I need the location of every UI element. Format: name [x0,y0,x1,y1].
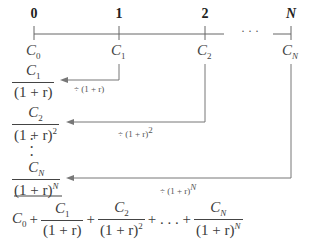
arrow-label-n: ÷ (1 + r)N [160,182,196,196]
arrow-1 [64,64,119,80]
discounted-1: C1 (1 + r) [12,63,54,100]
period-0: 0 [24,6,44,22]
sum-c0: C0 [12,210,27,229]
period-2: 2 [195,6,215,22]
arrow-head-icon [66,175,74,181]
arrow-label-2: ÷ (1 + r)2 [118,125,153,139]
ellipsis-plus: + . . . + [148,211,191,228]
cash-flow-0: C0 [26,42,41,61]
period-1: 1 [109,6,129,22]
cash-flow-n: CN [282,42,298,61]
arrow-head-icon [66,119,74,125]
plus-sign: + [86,211,94,228]
vertical-ellipsis: ··· [29,136,34,160]
cash-flow-1: C1 [111,42,126,61]
sum-term-1: C1 (1 + r) [41,201,83,238]
sum-term-n: CN (1 + r)N [194,200,242,238]
cash-flow-2: C2 [197,42,212,61]
discounted-2: C2 (1 + r)2 [12,105,59,143]
plus-sign: + [30,211,38,228]
sum-term-2: C2 (1 + r)2 [98,200,145,238]
arrow-label-1: ÷ (1 + r) [74,84,104,94]
timeline-ellipsis: · · · [241,24,259,39]
arrow-n [70,64,291,178]
discounted-n: CN (1 + r)N [12,160,60,198]
arrow-head-icon [60,77,68,83]
present-value-sum: C0 + C1 (1 + r) + C2 (1 + r)2 + . . . + … [12,200,243,238]
period-n: N [281,6,301,22]
